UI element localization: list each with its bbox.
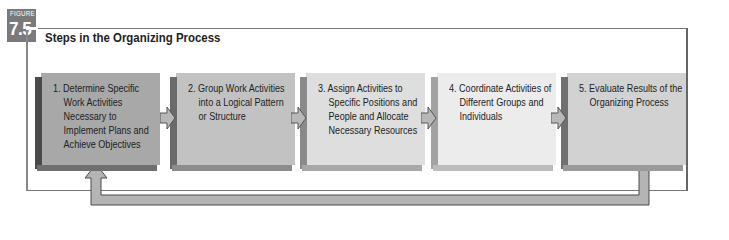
arrow-right-icon — [551, 106, 567, 130]
step-5-box: 5. Evaluate Results of the Organizing Pr… — [567, 73, 686, 165]
arrow-right-icon — [291, 106, 307, 130]
step-2-label: 2. Group Work Activities into a Logical … — [188, 82, 294, 124]
step-1-label: 1. Determine Specific Work Activities Ne… — [53, 82, 159, 152]
step-3-box: 3. Assign Activities to Specific Positio… — [306, 73, 425, 165]
step-4-box: 4. Coordinate Activities of Different Gr… — [437, 73, 556, 165]
step-5-label: 5. Evaluate Results of the Organizing Pr… — [579, 82, 685, 110]
step-1-box: 1. Determine Specific Work Activities Ne… — [41, 73, 160, 165]
arrow-right-icon — [160, 106, 176, 130]
step-3-label: 3. Assign Activities to Specific Positio… — [318, 82, 424, 138]
step-2-box: 2. Group Work Activities into a Logical … — [176, 73, 295, 165]
arrow-right-icon — [421, 106, 437, 130]
step-4-label: 4. Coordinate Activities of Different Gr… — [449, 82, 555, 124]
